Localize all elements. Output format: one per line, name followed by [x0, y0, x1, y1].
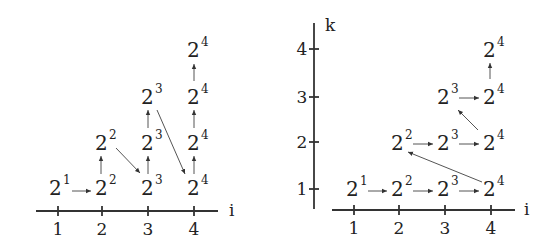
left-diagram: i 1 2 3 4 2 1 2 2 2 2 2 3 2 3 2 3	[36, 35, 235, 239]
svg-text:3: 3	[155, 173, 163, 187]
left-node-4-1: 2 4	[187, 173, 209, 200]
svg-text:2: 2	[391, 131, 404, 155]
right-x-tick-1: 1	[349, 218, 360, 238]
arrow-diagonal-icon	[116, 148, 140, 173]
left-node-4-2: 2 4	[187, 128, 209, 155]
svg-text:4: 4	[497, 82, 505, 96]
right-x-axis-label: i	[524, 199, 530, 219]
svg-text:2: 2	[49, 176, 62, 200]
left-node-2-2: 2 2	[95, 128, 117, 155]
right-node-2-2: 2 2	[391, 128, 413, 155]
right-y-tick-2: 2	[297, 132, 308, 152]
right-node-3-1: 2 3	[437, 174, 459, 201]
right-y-tick-1: 1	[297, 179, 308, 199]
left-node-2-1: 2 2	[95, 173, 117, 200]
right-y-axis-label: k	[325, 15, 336, 35]
right-node-3-3: 2 3	[437, 82, 459, 109]
svg-text:2: 2	[437, 131, 450, 155]
left-edges	[72, 64, 194, 191]
svg-text:2: 2	[187, 176, 200, 200]
svg-text:1: 1	[63, 173, 71, 187]
arrow-diagonal-icon	[157, 110, 185, 174]
svg-text:3: 3	[451, 174, 459, 188]
svg-text:4: 4	[497, 128, 505, 142]
svg-text:2: 2	[141, 85, 154, 109]
right-diagram: k 4 3 2 1 i 1 2 3 4 2 1 2 2 2	[297, 15, 530, 238]
svg-text:2: 2	[95, 176, 108, 200]
right-y-tick-4: 4	[297, 39, 308, 59]
svg-text:2: 2	[391, 177, 404, 201]
left-node-3-2: 2 3	[141, 128, 163, 155]
svg-text:4: 4	[497, 35, 505, 49]
svg-text:3: 3	[155, 128, 163, 142]
right-x-tick-3: 3	[440, 218, 451, 238]
svg-text:3: 3	[451, 128, 459, 142]
svg-text:4: 4	[201, 128, 209, 142]
svg-text:3: 3	[155, 82, 163, 96]
right-node-3-2: 2 3	[437, 128, 459, 155]
right-y-tick-3: 3	[297, 87, 308, 107]
right-node-4-1: 2 4	[483, 174, 505, 201]
svg-text:2: 2	[405, 174, 413, 188]
right-node-4-3: 2 4	[483, 82, 505, 109]
left-x-tick-1: 1	[53, 219, 64, 239]
svg-text:2: 2	[483, 85, 496, 109]
left-node-1-1: 2 1	[49, 173, 71, 200]
svg-text:4: 4	[201, 173, 209, 187]
left-x-axis-label: i	[229, 200, 235, 220]
right-x-axis: i 1 2 3 4	[332, 199, 530, 238]
arrow-diagonal-icon	[458, 110, 478, 130]
svg-text:2: 2	[109, 173, 117, 187]
left-x-tick-3: 3	[143, 219, 154, 239]
right-x-tick-2: 2	[394, 218, 405, 238]
left-x-tick-2: 2	[97, 219, 108, 239]
svg-text:2: 2	[405, 128, 413, 142]
right-x-tick-4: 4	[486, 218, 497, 238]
svg-text:2: 2	[141, 176, 154, 200]
svg-text:2: 2	[187, 85, 200, 109]
right-y-axis: k 4 3 2 1	[297, 15, 336, 209]
svg-text:2: 2	[437, 177, 450, 201]
svg-text:2: 2	[95, 131, 108, 155]
svg-text:2: 2	[141, 131, 154, 155]
left-x-tick-4: 4	[189, 219, 200, 239]
svg-text:2: 2	[109, 128, 117, 142]
svg-text:1: 1	[360, 174, 368, 188]
svg-text:4: 4	[497, 174, 505, 188]
right-node-2-1: 2 2	[391, 174, 413, 201]
svg-text:2: 2	[483, 38, 496, 62]
left-node-3-1: 2 3	[141, 173, 163, 200]
svg-text:2: 2	[187, 131, 200, 155]
svg-text:4: 4	[201, 82, 209, 96]
left-node-4-4: 2 4	[187, 35, 209, 62]
svg-text:2: 2	[437, 85, 450, 109]
svg-text:2: 2	[187, 38, 200, 62]
svg-text:4: 4	[201, 35, 209, 49]
diagram-canvas: i 1 2 3 4 2 1 2 2 2 2 2 3 2 3 2 3	[0, 0, 557, 247]
right-node-4-2: 2 4	[483, 128, 505, 155]
svg-text:2: 2	[483, 131, 496, 155]
svg-text:2: 2	[346, 177, 359, 201]
right-node-4-4: 2 4	[483, 35, 505, 62]
svg-text:2: 2	[483, 177, 496, 201]
left-node-3-3: 2 3	[141, 82, 163, 109]
left-x-axis: i 1 2 3 4	[36, 200, 235, 239]
svg-text:3: 3	[451, 82, 459, 96]
right-node-1-1: 2 1	[346, 174, 368, 201]
right-edges	[368, 63, 490, 191]
left-node-4-3: 2 4	[187, 82, 209, 109]
